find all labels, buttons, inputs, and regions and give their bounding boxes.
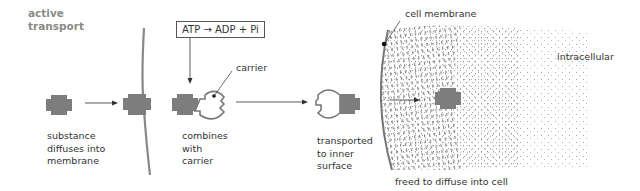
substance-molecule: [340, 94, 360, 114]
carrier-protein: [195, 91, 224, 118]
intracellular-region: [381, 25, 590, 170]
step1-label: substance diffuses into membrane: [47, 130, 105, 168]
cell-membrane-label: cell membrane: [405, 8, 476, 21]
intracellular-label: intracellular: [557, 51, 614, 64]
arrowhead: [302, 100, 308, 105]
arrowhead: [188, 78, 193, 84]
carrier-protein: [316, 90, 340, 118]
substance-molecule: [172, 94, 198, 115]
cell-membrane-dot: [382, 42, 386, 46]
substance-molecule-in-membrane: [123, 94, 151, 115]
substance-molecule: [46, 95, 72, 115]
diagram-title: active transport: [28, 7, 84, 33]
step2-label: combines with carrier: [182, 130, 228, 168]
atp-equation-box: ATP → ADP + Pi: [176, 21, 265, 38]
step3-label: transported to inner surface: [317, 135, 373, 173]
step4-label: freed to diffuse into cell: [395, 176, 508, 189]
arrowhead: [112, 101, 118, 106]
carrier-label: carrier: [236, 62, 267, 75]
carrier-pointer: [214, 71, 232, 96]
